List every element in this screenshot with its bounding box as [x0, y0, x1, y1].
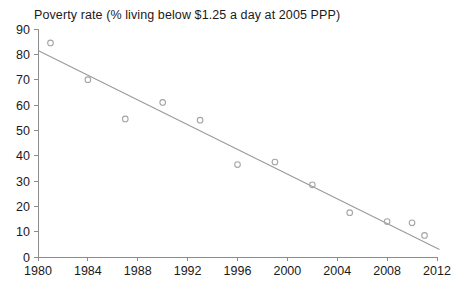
x-tick-label: 1984	[74, 264, 102, 278]
data-point	[235, 162, 241, 168]
x-tick-label: 1980	[24, 264, 52, 278]
x-tick-label: 1988	[124, 264, 152, 278]
data-point	[85, 77, 91, 83]
y-tick-label: 70	[16, 73, 30, 87]
x-tick-label: 1996	[224, 264, 252, 278]
x-tick-label: 1992	[174, 264, 202, 278]
y-tick-label: 50	[16, 124, 30, 138]
y-tick-label: 80	[16, 48, 30, 62]
x-tick-label: 2004	[323, 264, 351, 278]
data-point	[422, 233, 428, 239]
y-tick-label: 40	[16, 149, 30, 163]
data-point	[197, 117, 203, 123]
x-tick-label: 2000	[273, 264, 301, 278]
data-point	[122, 116, 128, 122]
data-point	[160, 100, 166, 106]
x-tick-label: 2008	[373, 264, 401, 278]
data-point	[272, 159, 278, 165]
data-point	[48, 40, 54, 46]
y-tick-label: 0	[23, 251, 30, 265]
data-point	[409, 220, 415, 226]
data-point	[347, 210, 353, 216]
y-tick-label: 90	[16, 23, 30, 37]
trend-line	[38, 51, 439, 250]
chart-plot-area: 0102030405060708090198019841988199219962…	[0, 0, 469, 290]
y-tick-label: 60	[16, 99, 30, 113]
x-tick-label: 2012	[423, 264, 451, 278]
y-tick-label: 20	[16, 200, 30, 214]
poverty-rate-chart: Poverty rate (% living below $1.25 a day…	[0, 0, 469, 290]
y-tick-label: 10	[16, 225, 30, 239]
y-tick-label: 30	[16, 175, 30, 189]
